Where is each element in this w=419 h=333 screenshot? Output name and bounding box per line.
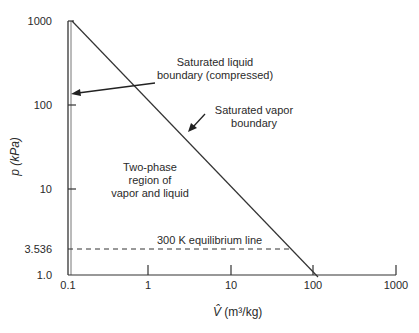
- equilibrium-line-label: 300 K equilibrium line: [157, 234, 262, 247]
- y-tick-label: 1.0: [0, 269, 52, 282]
- y-tick-label: 10: [0, 183, 52, 196]
- liquid-annotation-arrow: [78, 83, 155, 93]
- y-tick-label: 100: [0, 99, 52, 112]
- x-tick-label: 0.1: [48, 279, 88, 292]
- x-tick-label: 100: [293, 279, 333, 292]
- y-tick-label: 3.536: [0, 243, 52, 256]
- x-tick-label: 10: [211, 279, 251, 292]
- two-phase-region-label: Two-phase region of vapor and liquid: [95, 161, 205, 200]
- arrowhead-icon: [71, 89, 81, 96]
- y-axis-label: p (kPa): [9, 137, 22, 176]
- x-axis-label: V̂ (m³/kg): [213, 306, 262, 319]
- y-tick-label: 1000: [0, 15, 52, 28]
- x-tick-label: 1000: [376, 279, 416, 292]
- x-tick-label: 1: [128, 279, 168, 292]
- y-ticks: [68, 105, 76, 189]
- x-ticks: [148, 265, 396, 275]
- vapor-boundary-annotation: Saturated vapor boundary: [204, 104, 304, 130]
- liquid-boundary-annotation: Saturated liquid boundary (compressed): [150, 56, 280, 82]
